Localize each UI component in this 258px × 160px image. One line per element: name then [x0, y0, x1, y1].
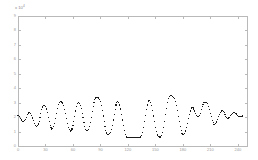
- x-tick-label: 60: [71, 148, 75, 153]
- x-tick-label: 150: [152, 148, 159, 153]
- y-tick-label: 2: [5, 115, 16, 120]
- y-axis-exponent-base: x 10: [15, 5, 23, 10]
- x-tick-label: 120: [125, 148, 132, 153]
- y-tick-label: 6: [5, 57, 16, 62]
- y-tick-label: 8: [5, 28, 16, 33]
- x-tick-label: 240: [234, 148, 241, 153]
- y-tick-label: 5: [5, 72, 16, 77]
- plot-frame: [19, 17, 248, 147]
- x-tick-label: 30: [43, 148, 47, 153]
- data-series-markers: [17, 95, 243, 138]
- y-tick-label: 9: [5, 14, 16, 19]
- x-tick-label: 180: [180, 148, 187, 153]
- y-tick-label: 3: [5, 100, 16, 105]
- x-tick-label: 90: [98, 148, 102, 153]
- y-axis-exponent-label: x 104: [15, 4, 25, 10]
- plot-area: [0, 0, 258, 160]
- y-tick-label: 1: [5, 129, 16, 134]
- x-axis-ticks: [19, 17, 239, 147]
- y-tick-label: 4: [5, 86, 16, 91]
- x-tick-label: 0: [17, 148, 19, 153]
- x-tick-label: 210: [207, 148, 214, 153]
- y-tick-label: 7: [5, 43, 16, 48]
- figure-canvas: x 104 0306090120150180210240 0123456789: [0, 0, 258, 160]
- y-tick-label: 0: [5, 144, 16, 149]
- y-axis-ticks: [19, 17, 248, 147]
- y-axis-exponent-power: 4: [23, 4, 25, 8]
